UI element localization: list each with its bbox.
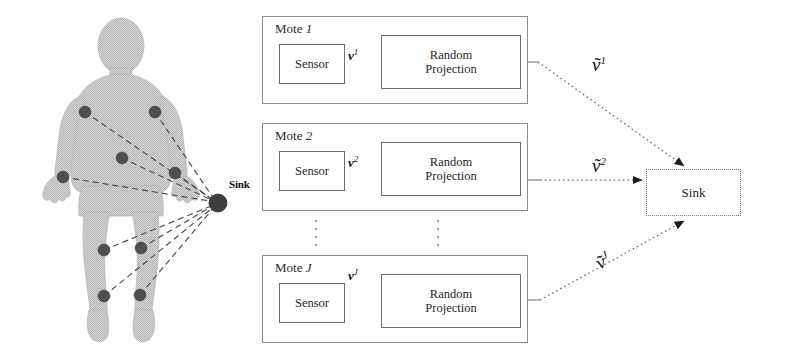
- mote-1-internal-signal-label: v1: [348, 47, 358, 64]
- mote-j-internal-signal-label: vJ: [348, 267, 358, 284]
- mote-2-projection-line1: Random: [430, 155, 472, 169]
- sink-box-label: Sink: [682, 185, 706, 201]
- ellipsis-left: [315, 220, 318, 252]
- sink-box[interactable]: Sink: [646, 169, 741, 216]
- mote-j-sensor-label: Sensor: [295, 296, 329, 311]
- mote-2-box[interactable]: Mote 2 Sensor Random Projection: [262, 123, 528, 211]
- diagram-canvas: Mote 1 Sensor Random Projection Mote 2 S…: [0, 0, 792, 361]
- mote-1-title: Mote 1: [275, 21, 312, 37]
- mote-j-random-projection-box[interactable]: Random Projection: [381, 274, 521, 328]
- mote-2-title: Mote 2: [275, 128, 312, 144]
- mote-2-projection-line2: Projection: [425, 169, 476, 183]
- mote-j-output-signal-label: ṽJ: [592, 248, 614, 274]
- mote-j-title: Mote J: [275, 260, 311, 276]
- mote-2-random-projection-box[interactable]: Random Projection: [381, 142, 521, 196]
- mote-j-projection-line2: Projection: [425, 301, 476, 315]
- mote-2-sensor-label: Sensor: [295, 164, 329, 179]
- mote-1-random-projection-box[interactable]: Random Projection: [381, 35, 521, 89]
- body-sink-node-label: Sink: [229, 178, 250, 190]
- mote-2-internal-signal-label: v2: [348, 154, 358, 171]
- mote-1-output-signal-label: ṽ1: [592, 54, 606, 76]
- mote-1-projection-line1: Random: [430, 48, 472, 62]
- mote-j-sensor-box[interactable]: Sensor: [279, 283, 345, 323]
- mote-2-sensor-box[interactable]: Sensor: [279, 151, 345, 191]
- mote-1-box[interactable]: Mote 1 Sensor Random Projection: [262, 16, 528, 104]
- mote-1-projection-line2: Projection: [425, 62, 476, 76]
- mote-j-box[interactable]: Mote J Sensor Random Projection: [262, 255, 528, 343]
- mote-1-sensor-label: Sensor: [295, 57, 329, 72]
- mote-j-projection-line1: Random: [430, 287, 472, 301]
- ellipsis-right: [437, 220, 440, 252]
- mote-1-sensor-box[interactable]: Sensor: [279, 44, 345, 84]
- mote-2-output-signal-label: ṽ2: [592, 155, 606, 177]
